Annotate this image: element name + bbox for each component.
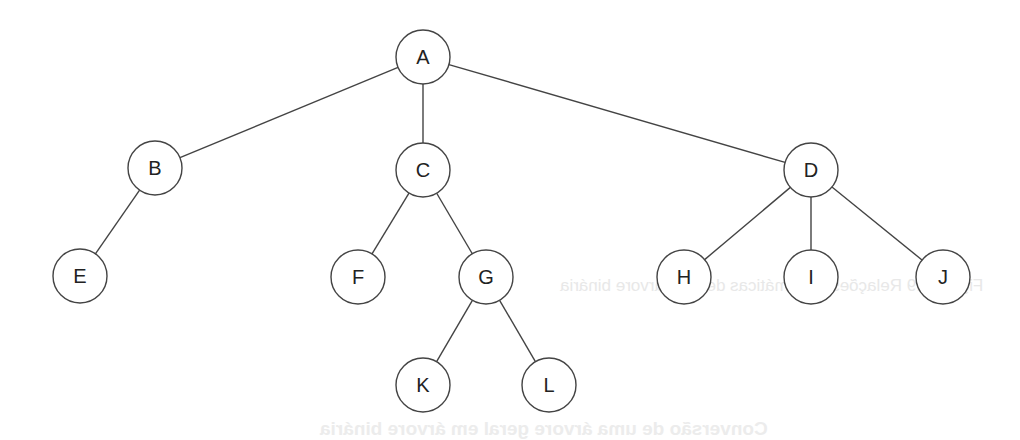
node-label: G: [478, 266, 494, 288]
node-h: H: [657, 250, 711, 304]
edge-c-g: [437, 193, 473, 253]
tree-nodes: ABCDEFGHIJKL: [53, 30, 970, 412]
node-label: D: [804, 159, 818, 181]
node-a: A: [396, 30, 450, 84]
node-k: K: [396, 358, 450, 412]
node-label: K: [416, 374, 430, 396]
edge-c-f: [372, 193, 409, 254]
edge-g-l: [500, 300, 536, 361]
node-label: C: [416, 159, 430, 181]
node-g: G: [459, 250, 513, 304]
node-label: H: [677, 266, 691, 288]
edge-a-d: [449, 65, 785, 163]
node-label: F: [352, 266, 364, 288]
node-f: F: [331, 250, 385, 304]
node-b: B: [128, 141, 182, 195]
node-label: B: [148, 157, 161, 179]
edge-d-j: [832, 187, 922, 260]
edge-g-k: [437, 300, 473, 361]
edge-b-e: [95, 190, 139, 254]
node-label: A: [416, 46, 430, 68]
edge-a-b: [180, 67, 398, 157]
node-label: I: [808, 266, 814, 288]
node-d: D: [784, 143, 838, 197]
tree-edges: [95, 65, 922, 362]
node-e: E: [53, 249, 107, 303]
node-c: C: [396, 143, 450, 197]
node-label: J: [938, 266, 948, 288]
node-label: E: [73, 265, 86, 287]
node-i: I: [784, 250, 838, 304]
node-j: J: [916, 250, 970, 304]
node-l: L: [522, 358, 576, 412]
node-label: L: [543, 374, 554, 396]
edge-d-h: [705, 187, 791, 259]
